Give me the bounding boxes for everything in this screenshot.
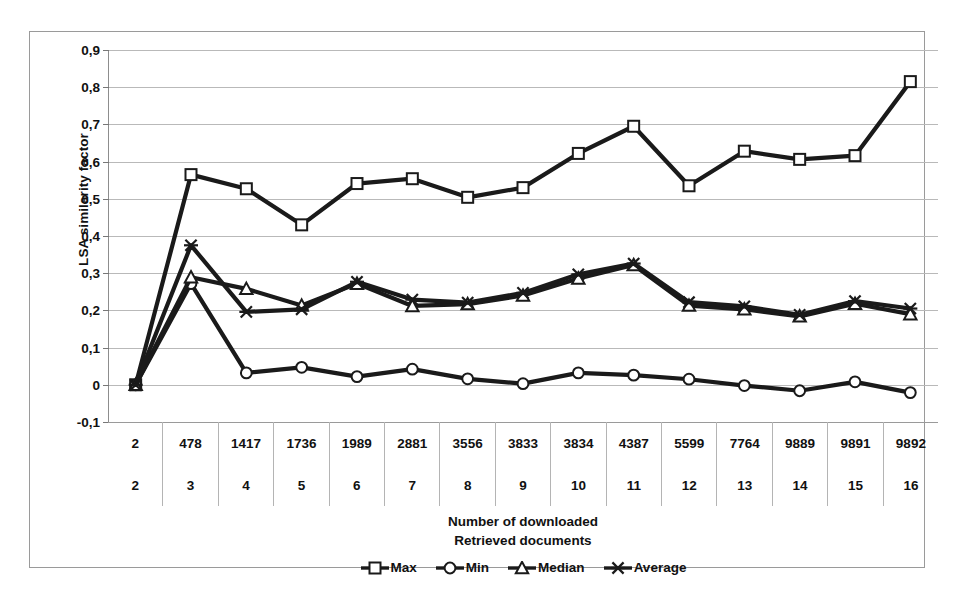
- data-point-square: [352, 178, 363, 189]
- x-axis-cell-retrieved: 4: [218, 464, 273, 506]
- legend-marker-star-icon: [603, 561, 633, 575]
- x-axis-cell-retrieved: 2: [108, 464, 162, 506]
- y-axis-tick-label: 0,9: [54, 43, 100, 58]
- y-axis-tick-labels: 0,90,80,70,60,50,40,30,20,10-0,1: [54, 50, 100, 422]
- data-point-square: [628, 121, 639, 132]
- data-point-square: [573, 148, 584, 159]
- data-point-square: [462, 192, 473, 203]
- x-axis-cell-retrieved: 8: [439, 464, 494, 506]
- y-axis-tick-label: 0,4: [54, 229, 100, 244]
- x-axis-cell-retrieved: 6: [329, 464, 384, 506]
- y-axis-tick-label: 0,5: [54, 191, 100, 206]
- x-axis-row-retrieved: 2345678910111213141516: [108, 464, 938, 506]
- x-axis-cell-downloaded: 478: [162, 422, 217, 464]
- x-axis-row-downloaded: 2478141717361989288135563833383443875599…: [108, 422, 938, 464]
- y-axis-tick-label: 0,7: [54, 117, 100, 132]
- x-axis-cell-retrieved: 9: [495, 464, 550, 506]
- x-axis-value-table: 2478141717361989288135563833383443875599…: [108, 422, 938, 506]
- x-axis-cell-downloaded: 3834: [550, 422, 605, 464]
- x-axis-cell-retrieved: 5: [273, 464, 328, 506]
- data-point-star: [239, 306, 253, 317]
- x-axis-cell-downloaded: 1736: [273, 422, 328, 464]
- legend-item-median[interactable]: Median: [507, 560, 585, 575]
- y-axis-tick-label: 0,8: [54, 80, 100, 95]
- chart-frame: LSA similarity factor 0,90,80,70,60,50,4…: [29, 31, 925, 568]
- series-max: [130, 76, 916, 390]
- x-axis-cell-downloaded: 7764: [716, 422, 771, 464]
- legend-marker-circle-icon: [435, 561, 465, 575]
- x-axis-cell-downloaded: 9892: [883, 422, 938, 464]
- legend-item-min[interactable]: Min: [435, 560, 489, 575]
- y-axis-tick-label: 0,6: [54, 154, 100, 169]
- legend-label: Max: [391, 560, 417, 575]
- x-axis-cell-downloaded: 3556: [439, 422, 494, 464]
- x-axis-cell-retrieved: 12: [661, 464, 716, 506]
- data-point-circle: [296, 362, 307, 373]
- data-point-square: [369, 562, 380, 573]
- x-axis-title-line2: Retrieved documents: [108, 531, 938, 550]
- data-point-circle: [241, 367, 252, 378]
- data-point-square: [296, 219, 307, 230]
- data-point-square: [794, 154, 805, 165]
- data-point-circle: [462, 373, 473, 384]
- series-line: [136, 265, 911, 385]
- legend-item-average[interactable]: Average: [603, 560, 687, 575]
- x-axis-cell-retrieved: 10: [550, 464, 605, 506]
- data-point-circle: [850, 376, 861, 387]
- data-point-square: [850, 150, 861, 161]
- data-point-circle: [518, 378, 529, 389]
- x-axis-cell-downloaded: 1989: [329, 422, 384, 464]
- chart-legend: MaxMinMedianAverage: [108, 560, 938, 575]
- legend-marker-triangle-icon: [507, 561, 537, 575]
- x-axis-cell-downloaded: 9891: [827, 422, 882, 464]
- legend-label: Average: [634, 560, 687, 575]
- data-point-square: [186, 169, 197, 180]
- data-point-circle: [444, 562, 455, 573]
- series-line: [136, 82, 911, 385]
- x-axis-cell-retrieved: 3: [162, 464, 217, 506]
- data-point-square: [407, 173, 418, 184]
- data-point-circle: [628, 370, 639, 381]
- x-axis-cell-retrieved: 14: [772, 464, 827, 506]
- y-axis-tick-label: 0: [54, 377, 100, 392]
- data-point-circle: [573, 367, 584, 378]
- data-point-square: [739, 146, 750, 157]
- x-axis-cell-retrieved: 13: [716, 464, 771, 506]
- plot-area: [108, 50, 938, 422]
- x-axis-cell-downloaded: 3833: [495, 422, 550, 464]
- series-layer: [108, 50, 938, 422]
- y-axis-tick-label: 0,3: [54, 266, 100, 281]
- data-point-square: [684, 180, 695, 191]
- data-point-circle: [739, 380, 750, 391]
- data-point-circle: [684, 374, 695, 385]
- x-axis-cell-retrieved: 11: [606, 464, 661, 506]
- legend-item-max[interactable]: Max: [360, 560, 417, 575]
- x-axis-cell-retrieved: 7: [384, 464, 439, 506]
- data-point-square: [241, 183, 252, 194]
- y-axis-tick-label: 0,2: [54, 303, 100, 318]
- legend-label: Min: [466, 560, 489, 575]
- x-axis-cell-downloaded: 9889: [772, 422, 827, 464]
- data-point-square: [905, 76, 916, 87]
- x-axis-cell-downloaded: 4387: [606, 422, 661, 464]
- x-axis-cell-retrieved: 16: [883, 464, 938, 506]
- y-axis-tick-label: -0,1: [54, 415, 100, 430]
- data-point-circle: [407, 364, 418, 375]
- legend-label: Median: [538, 560, 585, 575]
- data-point-circle: [352, 371, 363, 382]
- x-axis-cell-downloaded: 1417: [218, 422, 273, 464]
- x-axis-cell-downloaded: 5599: [661, 422, 716, 464]
- x-axis-title-line1: Number of downloaded: [108, 512, 938, 531]
- data-point-square: [518, 182, 529, 193]
- x-axis-cell-downloaded: 2: [108, 422, 162, 464]
- legend-marker-square-icon: [360, 561, 390, 575]
- chart-page: LSA similarity factor 0,90,80,70,60,50,4…: [0, 0, 954, 599]
- data-point-circle: [794, 385, 805, 396]
- x-axis-cell-downloaded: 2881: [384, 422, 439, 464]
- data-point-star: [611, 562, 625, 573]
- y-axis-tick-label: 0,1: [54, 340, 100, 355]
- data-point-circle: [905, 387, 916, 398]
- x-axis-title: Number of downloaded Retrieved documents: [108, 512, 938, 550]
- x-axis-cell-retrieved: 15: [827, 464, 882, 506]
